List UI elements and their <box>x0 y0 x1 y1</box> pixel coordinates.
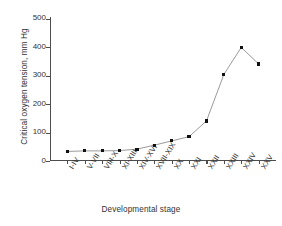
x-tick-label: XI-XIII <box>120 148 139 171</box>
x-tick-label: XX <box>172 157 185 171</box>
y-tick-label: 100 <box>33 127 46 136</box>
data-point <box>205 119 208 122</box>
chart-figure: Critical oxygen tension, mm Hg 010020030… <box>0 0 282 226</box>
y-axis-title: Critical oxygen tension, mm Hg <box>20 7 29 167</box>
x-tick-label: V-VII <box>85 152 102 171</box>
x-tick-label: XXI <box>189 155 203 170</box>
data-point <box>118 149 121 152</box>
x-tick-label: I-IV <box>67 156 81 171</box>
y-tick-mark <box>46 47 50 48</box>
data-point <box>135 148 138 151</box>
plot-area: 0100200300400500I-IVV-VIIVIII-XXI-XIIIXI… <box>50 18 275 160</box>
y-tick-mark <box>46 133 50 134</box>
y-tick-label: 200 <box>33 99 46 108</box>
x-tick-label: XXV <box>259 153 275 171</box>
y-tick-mark <box>46 19 50 20</box>
data-point <box>83 149 86 152</box>
data-point <box>170 139 173 142</box>
y-tick-mark <box>46 104 50 105</box>
x-tick-label: XXII <box>206 153 221 170</box>
data-point <box>187 135 190 138</box>
y-tick-label: 300 <box>33 70 46 79</box>
x-axis-title: Developmental stage <box>0 205 282 214</box>
data-point <box>153 144 156 147</box>
data-point <box>257 62 260 65</box>
data-point <box>240 46 243 49</box>
y-tick-label: 0 <box>42 156 46 165</box>
data-point <box>101 149 104 152</box>
y-tick-mark <box>46 76 50 77</box>
y-tick-label: 500 <box>33 13 46 22</box>
y-tick-label: 400 <box>33 42 46 51</box>
data-point <box>222 73 225 76</box>
y-tick-mark <box>46 161 50 162</box>
data-point <box>66 150 69 153</box>
x-tick-label: XXIII <box>224 152 241 171</box>
